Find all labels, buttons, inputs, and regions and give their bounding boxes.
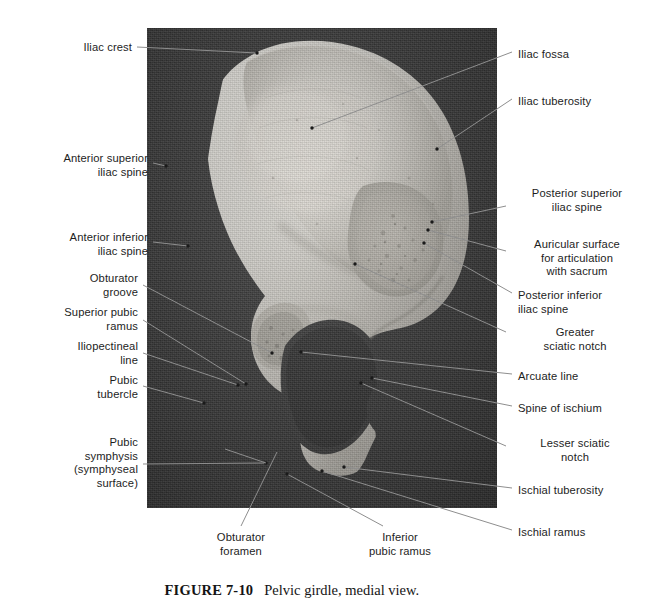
label-inferior-pubic-ramus: Inferior pubic ramus [352, 531, 448, 558]
figure-caption: FIGURE 7-10Pelvic girdle, medial view. [150, 565, 419, 598]
label-anterior-superior-iliac-spine: Anterior superior iliac spine [14, 152, 148, 179]
label-spine-of-ischium: Spine of ischium [518, 402, 642, 416]
label-ischial-ramus: Ischial ramus [518, 526, 642, 540]
pelvic-girdle-photograph [147, 28, 497, 508]
label-arcuate-line: Arcuate line [518, 370, 642, 384]
label-obturator-foramen: Obturator foramen [196, 531, 286, 558]
figure-number: FIGURE 7-10 [165, 582, 254, 598]
figure-container: Iliac crestAnterior superior iliac spine… [0, 0, 646, 598]
label-pubic-symphysis: Pubic symphysis (symphyseal surface) [14, 436, 138, 490]
label-pubic-tubercle: Pubic tubercle [14, 374, 138, 401]
figure-caption-text: Pelvic girdle, medial view. [264, 582, 419, 598]
label-iliac-tuberosity: Iliac tuberosity [518, 95, 642, 109]
label-posterior-inferior-iliac-spine: Posterior inferior iliac spine [518, 289, 646, 316]
label-greater-sciatic-notch: Greater sciatic notch [513, 326, 637, 353]
label-posterior-superior-iliac-spine: Posterior superior iliac spine [513, 187, 641, 214]
label-auricular-surface: Auricular surface for articulation with … [513, 238, 641, 279]
label-iliopectineal-line: Iliopectineal line [14, 340, 138, 367]
label-obturator-groove: Obturator groove [14, 272, 138, 299]
label-ischial-tuberosity: Ischial tuberosity [518, 484, 642, 498]
label-lesser-sciatic-notch: Lesser sciatic notch [513, 437, 637, 464]
label-iliac-fossa: Iliac fossa [518, 48, 642, 62]
label-superior-pubic-ramus: Superior pubic ramus [14, 306, 138, 333]
label-anterior-inferior-iliac-spine: Anterior inferior iliac spine [14, 231, 148, 258]
label-iliac-crest: Iliac crest [14, 41, 132, 55]
